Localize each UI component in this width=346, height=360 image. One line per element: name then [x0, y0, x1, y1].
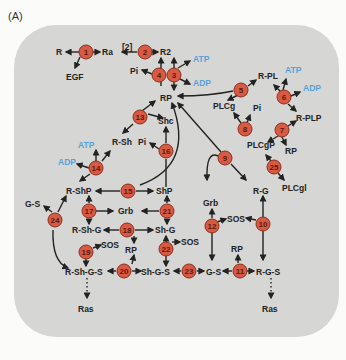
svg-text:1: 1 — [84, 48, 89, 57]
reaction-node-9: 9 — [218, 151, 232, 165]
species-R-Sh-G-S: R-Sh-G-S — [65, 267, 103, 277]
species-Sh-G-S: Sh-G-S — [141, 267, 170, 277]
reaction-node-18: 18 — [120, 223, 134, 237]
species-ShP: ShP — [156, 186, 173, 196]
reaction-node-14: 14 — [89, 161, 103, 175]
species-G-S-24: G-S — [25, 199, 40, 209]
reaction-node-5: 5 — [234, 83, 248, 97]
species-ADP-14: ADP — [58, 157, 76, 167]
svg-text:21: 21 — [163, 207, 172, 216]
svg-text:18: 18 — [123, 226, 132, 235]
reaction-node-7: 7 — [275, 123, 289, 137]
svg-text:24: 24 — [51, 216, 60, 225]
reaction-node-8: 8 — [238, 122, 252, 136]
reaction-node-19: 19 — [79, 245, 93, 259]
species-RP-18: RP — [125, 245, 137, 255]
reaction-node-22: 22 — [159, 242, 173, 256]
reaction-node-16: 16 — [159, 144, 173, 158]
species-Ras-right: Ras — [262, 304, 278, 314]
species-R-Sh-G: R-Sh-G — [72, 225, 102, 235]
species-SOS-22: SOS — [181, 237, 199, 247]
svg-text:7: 7 — [280, 126, 285, 135]
species-ADP-3: ADP — [193, 78, 211, 88]
svg-text:6: 6 — [282, 93, 287, 102]
species-PLCgl: PLCgl — [282, 183, 307, 193]
species-Shc: Shc — [158, 116, 174, 126]
species-Ra: Ra — [102, 47, 113, 57]
species-ATP-6: ATP — [285, 65, 302, 75]
svg-text:11: 11 — [236, 267, 245, 276]
edges — [44, 52, 300, 298]
species-PLCgP: PLCgP — [247, 140, 275, 150]
reaction-node-10: 10 — [256, 217, 270, 231]
svg-text:15: 15 — [124, 187, 133, 196]
species-R-PLP: R-PLP — [296, 113, 322, 123]
reaction-node-24: 24 — [48, 213, 62, 227]
reaction-node-13: 13 — [133, 110, 147, 124]
svg-text:10: 10 — [259, 220, 268, 229]
svg-text:9: 9 — [223, 154, 228, 163]
stoichiometry-2: [2] — [122, 42, 133, 52]
species-R-G: R-G — [253, 186, 269, 196]
reaction-node-15: 15 — [121, 184, 135, 198]
species-EGF: EGF — [66, 72, 83, 82]
species-R: R — [56, 47, 62, 57]
species-ATP-3: ATP — [193, 54, 210, 64]
species-R-PL: R-PL — [258, 71, 278, 81]
svg-text:4: 4 — [157, 71, 162, 80]
reaction-node-25: 25 — [267, 160, 281, 174]
reaction-node-12: 12 — [205, 219, 219, 233]
svg-text:14: 14 — [92, 164, 101, 173]
species-RP: RP — [160, 93, 172, 103]
svg-text:8: 8 — [243, 125, 248, 134]
svg-text:22: 22 — [162, 245, 171, 254]
svg-text:16: 16 — [162, 147, 171, 156]
reaction-node-4: 4 — [152, 68, 166, 82]
species-Ras-left: Ras — [78, 304, 94, 314]
species-RP-7: RP — [285, 146, 297, 156]
reaction-nodes: 1 2 3 4 5 6 7 8 9 10 11 12 13 14 15 16 1… — [48, 45, 291, 278]
svg-text:23: 23 — [185, 267, 194, 276]
species-R2: R2 — [160, 47, 171, 57]
reaction-node-2: 2 — [138, 45, 152, 59]
species-Pi-16: Pi — [138, 137, 146, 147]
svg-text:19: 19 — [82, 248, 91, 257]
reaction-node-21: 21 — [160, 204, 174, 218]
reaction-node-6: 6 — [277, 90, 291, 104]
species-ADP-6: ADP — [303, 83, 321, 93]
species-R-ShP: R-ShP — [66, 186, 92, 196]
svg-text:2: 2 — [143, 48, 148, 57]
svg-text:20: 20 — [120, 267, 129, 276]
species-G-S: G-S — [206, 267, 221, 277]
species-Pi-4: Pi — [130, 66, 138, 76]
species-ATP-14: ATP — [78, 140, 95, 150]
species-SOS-19: SOS — [101, 240, 119, 250]
species-SOS-12: SOS — [227, 214, 245, 224]
svg-text:5: 5 — [239, 86, 244, 95]
svg-text:17: 17 — [85, 207, 94, 216]
reaction-node-1: 1 — [79, 45, 93, 59]
reaction-node-23: 23 — [182, 264, 196, 278]
species-Pi-8: Pi — [253, 103, 261, 113]
reaction-node-17: 17 — [82, 204, 96, 218]
svg-text:3: 3 — [172, 71, 177, 80]
species-Grb-12: Grb — [203, 198, 218, 208]
reaction-node-3: 3 — [167, 68, 181, 82]
species-R-G-S: R-G-S — [256, 267, 280, 277]
species-R-Sh: R-Sh — [112, 137, 132, 147]
svg-text:12: 12 — [208, 222, 217, 231]
reaction-network: R Ra EGF [2] R2 ATP Pi ADP RP R-PL ATP A… — [0, 0, 346, 360]
svg-text:13: 13 — [136, 113, 145, 122]
reaction-node-20: 20 — [117, 264, 131, 278]
species-Sh-G: Sh-G — [155, 225, 176, 235]
species-Grb-17: Grb — [118, 206, 133, 216]
species-PLCg: PLCg — [213, 101, 235, 111]
species-RP-11: RP — [231, 244, 243, 254]
reaction-node-11: 11 — [233, 264, 247, 278]
svg-text:25: 25 — [270, 163, 279, 172]
